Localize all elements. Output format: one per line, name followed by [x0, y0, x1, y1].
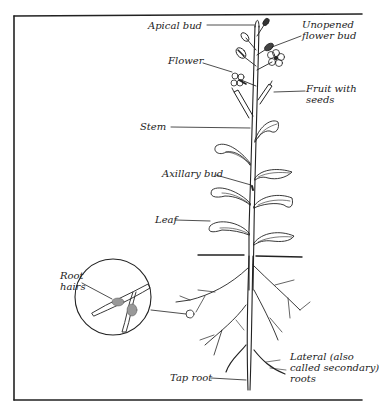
label-lateral-roots-line1: Lateral (also: [290, 351, 354, 362]
label-lateral-roots-line2: called secondary): [290, 362, 379, 373]
label-unopened-flower-bud-line2: flower bud: [302, 30, 356, 41]
frame-top-border: [14, 14, 362, 16]
label-fruit-line2: seeds: [306, 94, 335, 105]
label-stem: Stem: [140, 121, 166, 132]
label-unopened-flower-bud-line1: Unopened: [302, 19, 354, 30]
label-root-hairs-line2: hairs: [60, 281, 86, 292]
label-flower: Flower: [168, 55, 203, 66]
label-apical-bud: Apical bud: [148, 20, 202, 31]
label-fruit-line1: Fruit with: [306, 83, 357, 94]
label-root-hairs-line1: Root: [60, 270, 84, 281]
label-leaf: Leaf: [155, 214, 177, 225]
label-lateral-roots-line3: roots: [290, 373, 316, 384]
label-axillary-bud: Axillary bud: [162, 168, 223, 179]
label-tap-root: Tap root: [170, 372, 212, 383]
